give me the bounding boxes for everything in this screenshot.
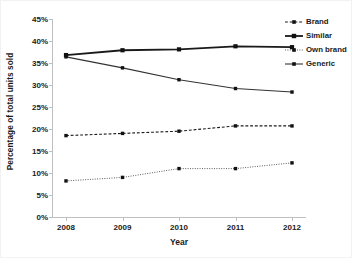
series-line [66,163,292,181]
data-point-marker [234,87,237,90]
data-point-marker [64,55,67,58]
data-point-marker [121,66,124,69]
x-tick-label: 2008 [57,223,75,232]
data-point-marker [177,47,181,51]
data-point-marker [64,134,67,137]
data-point-marker [121,176,124,179]
x-tick-label: 2009 [114,223,132,232]
x-axis-title: Year [52,237,306,247]
data-point-marker [290,90,293,93]
y-axis-title: Percentage of total units sold [1,1,21,221]
legend-item-own-brand[interactable]: Own brand [284,43,352,56]
x-tick-label: 2011 [227,223,244,232]
chart-legend: BrandSimilarOwn brandGeneric [284,15,352,71]
y-tick-label: 15% [32,147,48,156]
series-canvas [52,19,306,218]
data-point-marker [177,167,180,170]
x-tick-label: 2010 [170,223,188,232]
data-point-marker [64,179,67,182]
y-tick-label: 40% [32,37,48,46]
legend-item-similar[interactable]: Similar [284,29,352,42]
plot-area: 0%5%10%15%20%25%30%35%40%45% 20082009201… [52,19,306,218]
legend-label: Own brand [304,45,347,54]
series-own-brand [64,161,293,182]
data-point-marker [233,44,237,48]
chart-figure: Percentage of total units sold 0%5%10%15… [0,0,352,258]
series-similar [64,44,294,57]
legend-swatch-icon [284,58,304,70]
x-tick-mark [66,218,67,221]
legend-label: Brand [304,17,329,26]
y-tick-label: 10% [32,169,48,178]
legend-swatch-icon [284,44,304,56]
legend-label: Generic [304,59,335,68]
legend-swatch-icon [284,30,304,42]
data-point-marker [290,161,293,164]
series-line [66,57,292,92]
x-tick-mark [292,218,293,221]
legend-label: Similar [304,31,332,40]
legend-swatch-icon [284,16,304,28]
y-tick-label: 35% [32,59,48,68]
data-point-marker [121,132,124,135]
data-point-marker [177,78,180,81]
data-point-marker [177,130,180,133]
data-point-marker [234,167,237,170]
series-generic [64,55,293,94]
y-tick-label: 45% [32,15,48,24]
data-point-marker [290,124,293,127]
y-tick-label: 25% [32,103,48,112]
legend-item-brand[interactable]: Brand [284,15,352,28]
y-tick-label: 0% [36,213,48,222]
x-tick-mark [179,218,180,221]
x-tick-mark [123,218,124,221]
legend-item-generic[interactable]: Generic [284,57,352,70]
y-tick-label: 30% [32,81,48,90]
data-point-marker [120,48,124,52]
y-tick-label: 20% [32,125,48,134]
data-point-marker [234,124,237,127]
y-axis-title-text: Percentage of total units sold [7,52,16,170]
series-brand [64,124,293,137]
x-tick-mark [236,218,237,221]
x-tick-label: 2012 [283,223,301,232]
y-tick-label: 5% [36,191,48,200]
